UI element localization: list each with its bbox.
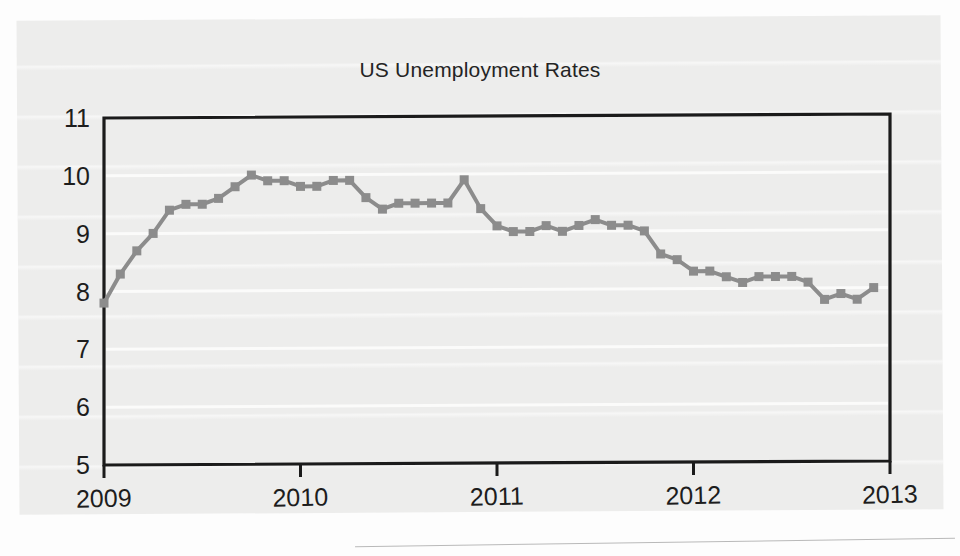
series-marker bbox=[558, 227, 567, 236]
series-marker bbox=[460, 175, 469, 184]
y-tick-label: 9 bbox=[76, 220, 90, 248]
series-marker bbox=[247, 171, 256, 180]
y-tick-label: 7 bbox=[76, 335, 90, 363]
x-tick-labels: 20092010201120122013 bbox=[76, 479, 918, 512]
gridline bbox=[106, 172, 888, 176]
gridline bbox=[106, 288, 888, 292]
series-marker bbox=[738, 278, 747, 287]
series-marker bbox=[411, 199, 420, 208]
series-marker bbox=[116, 270, 125, 279]
series-marker bbox=[820, 295, 829, 304]
series-marker bbox=[100, 299, 109, 308]
series-marker bbox=[476, 204, 485, 213]
x-tick-label: 2011 bbox=[470, 481, 524, 510]
series-marker bbox=[574, 221, 583, 230]
series-marker bbox=[394, 199, 403, 208]
series-marker bbox=[640, 226, 649, 235]
series-marker bbox=[181, 200, 190, 209]
series-marker bbox=[542, 221, 551, 230]
y-tick-label: 11 bbox=[64, 104, 90, 132]
series-marker bbox=[132, 246, 141, 255]
photographed-page: US Unemployment Rates 567891011 20092010… bbox=[0, 0, 960, 556]
series-marker bbox=[263, 176, 272, 185]
series-marker bbox=[656, 249, 665, 258]
x-tick-label: 2012 bbox=[665, 480, 721, 509]
series-marker bbox=[591, 215, 600, 224]
gridlines bbox=[106, 114, 888, 465]
y-tick-labels: 567891011 bbox=[62, 104, 90, 479]
series-marker bbox=[804, 278, 813, 287]
y-tick-label: 6 bbox=[76, 393, 90, 421]
gridline bbox=[106, 345, 888, 349]
series-marker bbox=[836, 289, 845, 298]
series-marker bbox=[214, 194, 223, 203]
series-marker bbox=[296, 182, 305, 191]
series-marker bbox=[754, 272, 763, 281]
series-marker bbox=[280, 176, 289, 185]
series-marker bbox=[853, 295, 862, 304]
series-marker bbox=[198, 200, 207, 209]
series-marker bbox=[427, 199, 436, 208]
series-marker bbox=[722, 272, 731, 281]
unemployment-chart: US Unemployment Rates 567891011 20092010… bbox=[0, 0, 960, 556]
series-marker bbox=[787, 272, 796, 281]
series-marker bbox=[705, 267, 714, 276]
series-marker bbox=[165, 206, 174, 215]
x-tick-label: 2009 bbox=[76, 483, 132, 512]
y-tick-label: 5 bbox=[76, 451, 90, 479]
x-tick-label: 2013 bbox=[862, 479, 918, 508]
series-marker bbox=[673, 255, 682, 264]
series-marker bbox=[231, 182, 240, 191]
series-marker bbox=[689, 267, 698, 276]
series-marker bbox=[443, 199, 452, 208]
series-marker bbox=[149, 229, 158, 238]
series-marker bbox=[345, 176, 354, 185]
series-marker bbox=[771, 272, 780, 281]
series-marker bbox=[624, 221, 633, 230]
y-tick-label: 10 bbox=[62, 162, 90, 190]
series-marker bbox=[361, 193, 370, 202]
y-tick-label: 8 bbox=[76, 278, 90, 306]
series-marker bbox=[509, 227, 518, 236]
gridline bbox=[106, 403, 888, 407]
x-tick-label: 2010 bbox=[272, 482, 328, 511]
series-marker bbox=[329, 176, 338, 185]
series-marker bbox=[607, 221, 616, 230]
series-marker bbox=[525, 227, 534, 236]
series-marker bbox=[493, 221, 502, 230]
series-marker bbox=[869, 283, 878, 292]
series-marker bbox=[312, 182, 321, 191]
series-marker bbox=[378, 205, 387, 214]
chart-plot-svg: 567891011 20092010201120122013 bbox=[0, 0, 960, 556]
